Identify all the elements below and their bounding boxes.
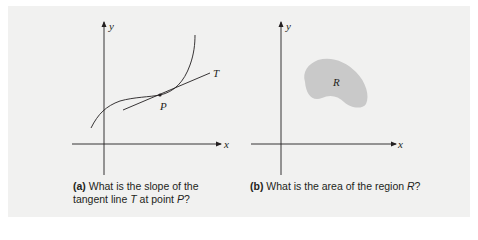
- x-axis-label-b: x: [397, 138, 403, 150]
- caption-a-tag: (a): [73, 180, 86, 192]
- y-axis-label-b: y: [285, 20, 291, 32]
- figure-a-graph: y x T P: [72, 20, 229, 175]
- caption-b-text: What is the area of the region: [263, 180, 407, 192]
- point-label: P: [159, 100, 167, 112]
- figure-b-graph: y x R: [251, 20, 403, 175]
- caption-a-P: P: [177, 193, 184, 205]
- region-label: R: [332, 76, 340, 88]
- caption-a-end: ?: [184, 193, 190, 205]
- caption-b: (b) What is the area of the region R?: [250, 180, 420, 193]
- caption-a-line2-prefix: tangent line: [73, 193, 130, 205]
- caption-a: (a) What is the slope of the tangent lin…: [73, 180, 199, 206]
- caption-b-R: R: [407, 180, 415, 192]
- x-axis-label-a: x: [223, 138, 229, 150]
- caption-a-mid: at point: [137, 193, 177, 205]
- curve-a: [91, 35, 195, 128]
- caption-b-end: ?: [415, 180, 421, 192]
- y-axis-label-a: y: [108, 20, 114, 32]
- caption-a-line1: What is the slope of the: [86, 180, 199, 192]
- caption-b-tag: (b): [250, 180, 263, 192]
- point-P: [158, 93, 161, 96]
- tangent-label: T: [213, 67, 220, 79]
